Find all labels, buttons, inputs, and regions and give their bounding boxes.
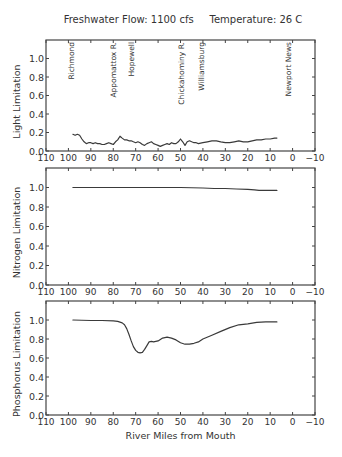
x-tick-label: 80 bbox=[108, 287, 120, 297]
chart-canvas: Freshwater Flow: 1100 cfs Temperature: 2… bbox=[0, 0, 342, 457]
y-tick-label: 0.2 bbox=[29, 127, 44, 138]
place-label: Appomattox R. bbox=[109, 42, 118, 98]
x-tick-label: 70 bbox=[130, 417, 142, 427]
y-tick-label: 0.0 bbox=[29, 410, 44, 421]
y-tick-label: 0.4 bbox=[29, 241, 44, 252]
y-axis-label: Phosphorus Limitation bbox=[11, 311, 22, 417]
x-tick-label: 30 bbox=[220, 153, 232, 163]
x-tick-label: 30 bbox=[220, 287, 232, 297]
series-line-phosphorus bbox=[73, 320, 277, 353]
figure: Freshwater Flow: 1100 cfs Temperature: 2… bbox=[0, 0, 342, 457]
x-axis-label: River Miles from Mouth bbox=[126, 430, 236, 441]
x-tick-label: 10 bbox=[264, 417, 276, 427]
x-tick-label: 30 bbox=[220, 417, 232, 427]
chart-title: Freshwater Flow: 1100 cfs Temperature: 2… bbox=[64, 14, 303, 25]
place-label: Chickahominy R. bbox=[177, 42, 186, 105]
series-line-nitrogen bbox=[73, 188, 277, 191]
panels: 1101009080706050403020100−100.00.20.40.6… bbox=[11, 40, 325, 441]
x-tick-label: 80 bbox=[108, 153, 120, 163]
x-tick-label: 0 bbox=[290, 417, 296, 427]
x-tick-label: 50 bbox=[175, 417, 187, 427]
y-tick-label: 0.8 bbox=[29, 72, 44, 83]
y-tick-label: 1.0 bbox=[29, 315, 44, 326]
place-label: Richmond bbox=[67, 42, 76, 80]
x-tick-label: 100 bbox=[60, 287, 77, 297]
x-tick-label: 0 bbox=[290, 153, 296, 163]
x-tick-label: 20 bbox=[242, 287, 254, 297]
panel-phosphorus: 1101009080706050403020100−100.00.20.40.6… bbox=[11, 301, 325, 441]
y-axis-label: Light Limitation bbox=[11, 64, 22, 138]
x-tick-label: 50 bbox=[175, 153, 187, 163]
plot-frame bbox=[46, 301, 315, 415]
x-tick-label: 0 bbox=[290, 287, 296, 297]
x-tick-label: 90 bbox=[85, 153, 97, 163]
x-tick-label: 40 bbox=[197, 287, 209, 297]
y-tick-label: 0.8 bbox=[29, 202, 44, 213]
y-tick-label: 0.6 bbox=[29, 221, 44, 232]
y-tick-label: 0.2 bbox=[29, 391, 44, 402]
y-axis: 0.00.20.40.60.81.0 bbox=[29, 182, 315, 291]
place-label: Williamsburg bbox=[197, 42, 206, 91]
x-tick-label: 90 bbox=[85, 287, 97, 297]
x-tick-label: 10 bbox=[264, 153, 276, 163]
x-tick-label: 100 bbox=[60, 153, 77, 163]
x-tick-label: 40 bbox=[197, 153, 209, 163]
x-tick-label: 60 bbox=[152, 153, 164, 163]
panel-light: 1101009080706050403020100−100.00.20.40.6… bbox=[11, 40, 325, 163]
x-tick-label: 10 bbox=[264, 287, 276, 297]
x-tick-label: 70 bbox=[130, 153, 142, 163]
y-tick-label: 1.0 bbox=[29, 53, 44, 64]
y-tick-label: 0.4 bbox=[29, 109, 44, 120]
x-tick-label: 90 bbox=[85, 417, 97, 427]
place-label: Newport News bbox=[284, 42, 293, 96]
x-tick-label: 60 bbox=[152, 287, 164, 297]
y-axis: 0.00.20.40.60.81.0 bbox=[29, 315, 315, 421]
place-label: Hopewell bbox=[127, 42, 136, 77]
y-tick-label: 0.0 bbox=[29, 280, 44, 291]
x-tick-label: 100 bbox=[60, 417, 77, 427]
y-tick-label: 0.0 bbox=[29, 146, 44, 157]
y-tick-label: 0.8 bbox=[29, 334, 44, 345]
y-tick-label: 1.0 bbox=[29, 182, 44, 193]
x-tick-label: 20 bbox=[242, 417, 254, 427]
x-tick-label: −10 bbox=[306, 417, 325, 427]
place-annotations: RichmondAppomattox R.HopewellChickahomin… bbox=[67, 42, 293, 105]
plot-frame bbox=[46, 168, 315, 285]
x-tick-label: 40 bbox=[197, 417, 209, 427]
series-line-light bbox=[73, 134, 277, 146]
x-tick-label: 60 bbox=[152, 417, 164, 427]
y-tick-label: 0.2 bbox=[29, 260, 44, 271]
x-tick-label: 50 bbox=[175, 287, 187, 297]
y-axis-label: Nitrogen Limitation bbox=[11, 187, 22, 278]
y-tick-label: 0.6 bbox=[29, 90, 44, 101]
y-tick-label: 0.4 bbox=[29, 372, 44, 383]
x-tick-label: 20 bbox=[242, 153, 254, 163]
x-tick-label: 80 bbox=[108, 417, 120, 427]
x-tick-label: −10 bbox=[306, 153, 325, 163]
panel-nitrogen: 1101009080706050403020100−100.00.20.40.6… bbox=[11, 168, 325, 297]
x-tick-label: −10 bbox=[306, 287, 325, 297]
y-tick-label: 0.6 bbox=[29, 353, 44, 364]
x-tick-label: 70 bbox=[130, 287, 142, 297]
